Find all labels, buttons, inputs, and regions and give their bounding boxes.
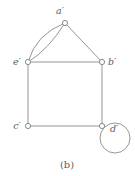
vertex-e-prime [25,59,30,64]
vertex-d-prime [99,123,104,128]
graph-diagram: a′ e′ b′ c′ d′ (b) [0,0,135,176]
vertex-label-c-prime: c′ [13,120,21,131]
vertex-label-e-prime: e′ [13,56,22,67]
figure-container: a′ e′ b′ c′ d′ (b) [0,0,135,176]
vertex-b-prime [99,59,104,64]
edge-a-prime-e-prime-inner [28,23,65,62]
vertex-c-prime [25,123,30,128]
edge-a-prime-e-prime-outer [28,23,65,62]
vertex-label-b-prime: b′ [108,56,117,67]
edge-a-prime-b-prime [65,23,102,62]
vertex-label-d-prime: d′ [110,123,119,134]
figure-caption: (b) [60,159,74,170]
vertex-a-prime [62,20,67,25]
vertex-label-a-prime: a′ [56,5,65,16]
